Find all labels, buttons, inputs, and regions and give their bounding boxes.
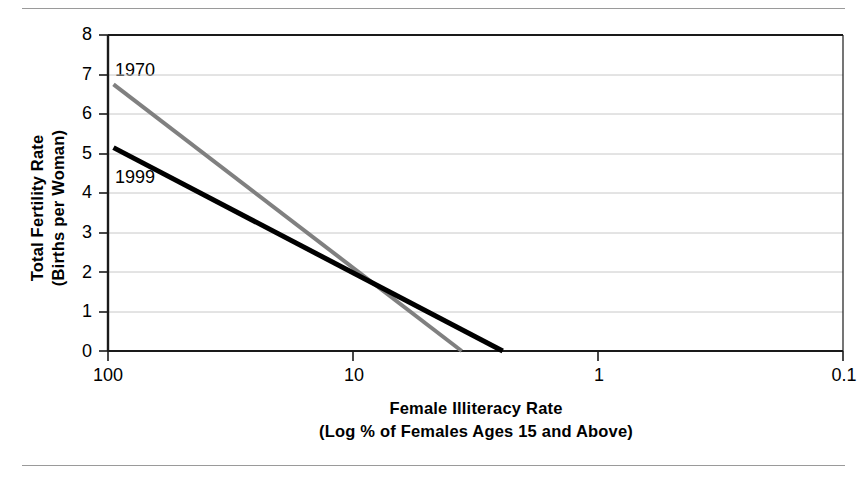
plot-area	[0, 0, 867, 478]
gridlines	[108, 75, 843, 312]
series-line-1999	[114, 148, 503, 351]
chart-figure: Total Fertility Rate (Births per Woman) …	[0, 0, 867, 478]
y-axis-ticks	[99, 35, 108, 351]
series-line-1970	[114, 84, 462, 351]
x-axis-ticks	[108, 351, 843, 361]
